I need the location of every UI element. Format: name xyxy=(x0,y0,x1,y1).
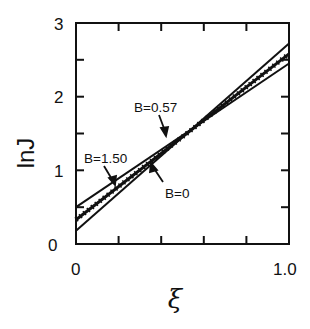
series-lines xyxy=(76,44,289,231)
chart: 3 2 1 0 0 1.0 lnJ ξ B=1.50 B=0.57 B=0 xyxy=(0,0,310,329)
x-ticks xyxy=(119,23,247,244)
y-tick-label-2: 2 xyxy=(54,88,63,107)
plot-frame xyxy=(76,23,289,244)
y-tick-label-0: 0 xyxy=(48,236,57,255)
series-b0-line xyxy=(76,44,289,231)
y-axis-title: lnJ xyxy=(12,138,39,169)
x-tick-label-1: 1.0 xyxy=(273,260,297,279)
label-b150: B=1.50 xyxy=(84,151,127,166)
label-b0: B=0 xyxy=(165,186,189,201)
y-tick-label-3: 3 xyxy=(54,15,63,34)
label-b057: B=0.57 xyxy=(134,100,177,115)
x-axis-title: ξ xyxy=(168,284,184,314)
x-tick-label-0: 0 xyxy=(71,260,80,279)
y-tick-label-1: 1 xyxy=(54,162,63,181)
